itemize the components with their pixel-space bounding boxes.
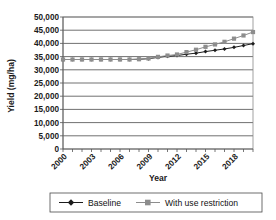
square-marker-icon	[137, 57, 141, 61]
y-axis-title: Yield (mg/ha)	[6, 59, 16, 113]
legend-label-baseline: Baseline	[88, 198, 121, 208]
square-marker-icon	[118, 57, 122, 61]
square-marker-icon	[70, 57, 74, 61]
square-marker-icon	[61, 57, 65, 61]
y-tick-label: 5,000	[39, 132, 60, 141]
square-marker-icon	[241, 33, 245, 37]
y-axis-title-group: Yield (mg/ha)	[6, 59, 16, 113]
chart-figure: Yield (mg/ha) 50,000 45,000 40,000 35,00…	[0, 0, 276, 220]
square-marker-icon	[89, 57, 93, 61]
y-tick-labels: 50,000 45,000 40,000 35,000 30,000 25,00…	[34, 13, 59, 154]
square-marker-icon	[127, 57, 131, 61]
x-tick-label: 2003	[78, 152, 98, 172]
square-marker-icon	[80, 57, 84, 61]
square-marker-icon	[108, 57, 112, 61]
square-marker-icon	[99, 57, 103, 61]
square-marker-icon	[203, 45, 207, 49]
x-tick-label: 2006	[107, 152, 127, 172]
y-tick-label: 15,000	[34, 105, 59, 114]
square-marker-icon	[145, 200, 151, 206]
square-marker-icon	[165, 53, 169, 57]
square-marker-icon	[184, 50, 188, 54]
y-tick-label: 45,000	[34, 26, 59, 35]
x-tick-label: 2018	[221, 152, 241, 172]
x-tickmarks	[63, 149, 253, 152]
y-tick-label: 35,000	[34, 53, 59, 62]
y-tick-label: 25,000	[34, 79, 59, 88]
legend-label-restriction: With use restriction	[165, 198, 238, 208]
y-tick-label: 20,000	[34, 92, 59, 101]
x-tick-label: 2012	[164, 152, 184, 172]
square-marker-icon	[175, 52, 179, 56]
square-marker-icon	[232, 37, 236, 41]
square-marker-icon	[222, 40, 226, 44]
x-axis-title: Year	[149, 173, 168, 183]
x-tick-labels: 2000200320062009201220152018	[50, 152, 241, 172]
square-marker-icon	[194, 48, 198, 52]
legend: Baseline With use restriction	[50, 193, 262, 212]
x-tick-label: 2015	[192, 152, 212, 172]
square-marker-icon	[251, 30, 255, 34]
x-tick-label: 2009	[135, 152, 155, 172]
y-tick-label: 10,000	[34, 119, 59, 128]
square-marker-icon	[213, 42, 217, 46]
y-tick-label: 50,000	[34, 13, 59, 22]
square-marker-icon	[156, 55, 160, 59]
y-tick-label: 0	[54, 145, 59, 154]
yield-line-chart: Yield (mg/ha) 50,000 45,000 40,000 35,00…	[0, 0, 276, 220]
square-marker-icon	[146, 56, 150, 60]
y-tick-label: 30,000	[34, 66, 59, 75]
plot-area	[60, 17, 255, 152]
y-tick-label: 40,000	[34, 39, 59, 48]
x-tick-label: 2000	[50, 152, 70, 172]
